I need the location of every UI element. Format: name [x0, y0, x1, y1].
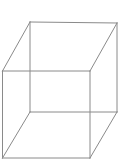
cube-wireframe-svg — [0, 0, 120, 162]
cube-edge-group — [3, 22, 118, 158]
cube-edge-connector-top-right — [90, 23, 117, 71]
cube-edge-connector-bottom-left — [3, 112, 31, 158]
cube-edge-connector-top-left — [3, 22, 31, 71]
cube-figure — [0, 0, 120, 162]
cube-edge-connector-bottom-right — [90, 112, 117, 158]
cube-edge-back-top — [30, 22, 117, 23]
